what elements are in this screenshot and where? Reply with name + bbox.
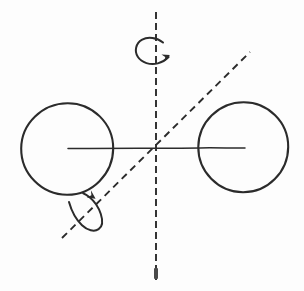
bond-axis-line — [68, 148, 245, 149]
rotation-axes-diagram: Rotation axes of a diatomic-like two-sph… — [0, 0, 304, 291]
top-rotation-arrow-curve — [136, 38, 169, 64]
left-sphere — [21, 103, 113, 195]
lower-left-rotation-arrowhead — [87, 190, 96, 199]
lower-left-rotation-arrow — [69, 190, 102, 230]
figure-canvas: Rotation axes of a diatomic-like two-sph… — [0, 0, 304, 291]
top-rotation-arrow — [136, 38, 170, 64]
bond-axis — [68, 148, 245, 149]
left-sphere-outline — [21, 103, 113, 195]
scan-artifacts — [154, 268, 158, 279]
bottom-scan-mark — [154, 268, 158, 279]
